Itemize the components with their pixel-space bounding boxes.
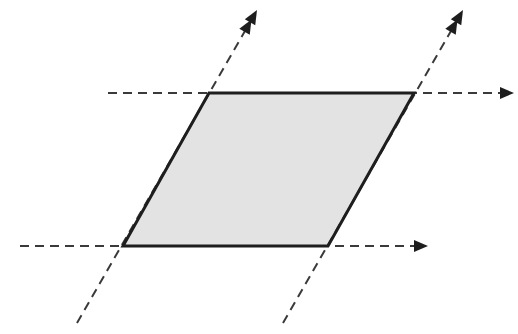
arrowhead-icon <box>239 20 251 35</box>
arrowhead-icon <box>500 87 514 99</box>
parallelogram-diagram <box>0 0 518 334</box>
arrowhead-icon <box>414 240 428 252</box>
arrowhead-icon <box>445 20 457 35</box>
diagram-canvas <box>0 0 518 334</box>
